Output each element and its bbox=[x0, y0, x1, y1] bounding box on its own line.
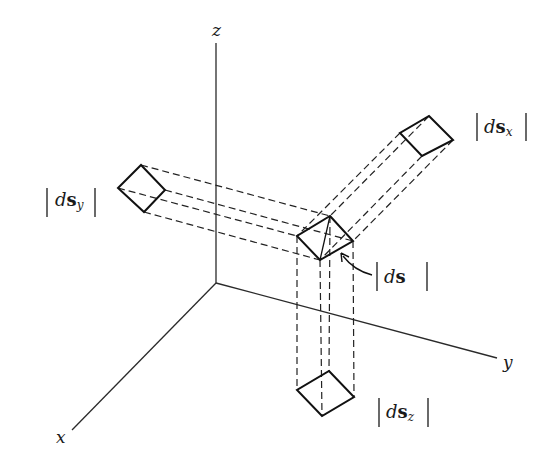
projection-lines-x bbox=[297, 116, 453, 260]
ds-x-rhombus bbox=[400, 116, 453, 156]
svg-text:dsx: dsx bbox=[484, 116, 513, 139]
svg-text:dsy: dsy bbox=[55, 189, 84, 212]
svg-text:dsz: dsz bbox=[386, 401, 415, 424]
x-axis bbox=[72, 283, 216, 430]
z-axis-label: z bbox=[211, 20, 222, 40]
label-ds-y: dsy bbox=[47, 188, 95, 217]
label-ds: ds bbox=[377, 262, 427, 291]
svg-text:ds: ds bbox=[384, 266, 406, 287]
ds-element bbox=[297, 216, 353, 260]
projection-lines-y bbox=[118, 165, 353, 260]
y-axis bbox=[216, 283, 497, 358]
ds-z-rhombus bbox=[297, 371, 354, 416]
label-ds-x: dsx bbox=[477, 113, 526, 141]
x-axis-label: x bbox=[56, 427, 66, 447]
diagram-canvas: z y x bbox=[0, 0, 546, 462]
axes: z y x bbox=[56, 20, 513, 447]
ds-z-element bbox=[297, 371, 354, 416]
ds-x-element bbox=[400, 116, 453, 156]
ds-y-rhombus bbox=[118, 165, 165, 212]
ds-y-element bbox=[118, 165, 165, 212]
y-axis-label: y bbox=[502, 352, 513, 372]
ds-pointer-arrow bbox=[341, 253, 372, 275]
label-ds-z: dsz bbox=[379, 398, 428, 427]
